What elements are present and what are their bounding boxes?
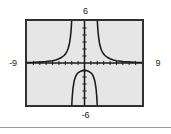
graph-figure: 6 -9 9 -6 (0, 0, 171, 134)
axes-group (27, 21, 142, 105)
plot-area (25, 19, 144, 107)
x-axis-max-label: 9 (148, 58, 168, 68)
y-axis-max-label: 6 (0, 6, 171, 16)
footer-divider (0, 127, 171, 128)
x-axis-min-label: -9 (3, 58, 23, 68)
plot-canvas (27, 21, 142, 105)
y-axis-min-label: -6 (0, 110, 171, 120)
